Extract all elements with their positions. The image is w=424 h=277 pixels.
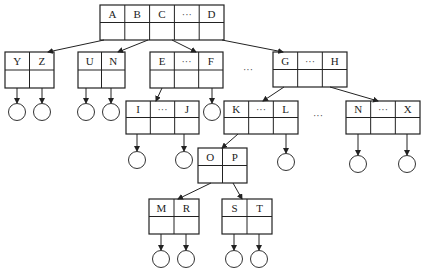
node-key: N [109, 55, 117, 67]
tree-node-root: ABC···D [100, 5, 224, 40]
edge-root-ef [172, 40, 196, 52]
edge-ef-ij [156, 88, 162, 101]
node-key: U [86, 55, 94, 67]
edge-op-st [233, 183, 242, 199]
leaf-node [103, 104, 120, 121]
leaf-node [9, 104, 26, 121]
tree-node-kl: K···L [224, 101, 298, 134]
node-key: I [136, 103, 140, 115]
node-key: S [231, 202, 237, 214]
leaf-node [350, 156, 367, 173]
node-key: ··· [182, 56, 192, 67]
node-key: G [281, 55, 289, 67]
edge-kl-op [222, 134, 238, 148]
node-key: M [157, 202, 167, 214]
tree-diagram: ABC···DYZUNE···FG···HI···JK···LN···XOPMR… [0, 0, 424, 277]
node-key: Y [13, 55, 21, 67]
node-key: K [232, 103, 240, 115]
leaf-node [129, 152, 146, 169]
node-key: ··· [158, 104, 168, 115]
node-key: T [256, 202, 263, 214]
leaf-node [399, 156, 416, 173]
node-key: X [404, 103, 412, 115]
node-key: F [208, 55, 214, 67]
node-key: J [185, 103, 190, 115]
node-key: R [183, 202, 191, 214]
leaf-node [204, 104, 221, 121]
edge-root-un [118, 40, 148, 52]
edge-root-yz [48, 40, 104, 52]
leaf-node [153, 251, 170, 268]
leaf-node [176, 152, 193, 169]
leaf-node [251, 251, 268, 268]
node-key: L [282, 103, 289, 115]
node-key: H [331, 55, 339, 67]
node-key: N [354, 103, 362, 115]
node-key: O [206, 151, 214, 163]
tree-node-ef: E···F [150, 52, 223, 88]
node-key: ··· [305, 56, 315, 67]
edge-gh-nx [330, 87, 378, 101]
node-key: E [159, 55, 166, 67]
ellipsis-marker: ··· [313, 110, 323, 121]
node-key: C [158, 8, 165, 20]
leaf-node [278, 154, 295, 171]
ellipsis-marker: ··· [243, 64, 253, 75]
leaf-node [78, 104, 95, 121]
leaf-node [226, 251, 243, 268]
tree-node-ij: I···J [126, 101, 199, 134]
node-key: D [208, 8, 216, 20]
edge-root-gh [222, 40, 283, 52]
tree-node-st: ST [222, 199, 272, 234]
node-key: ··· [256, 104, 266, 115]
tree-node-mr: MR [149, 199, 199, 234]
node-key: Z [38, 55, 45, 67]
tree-node-nx: N···X [346, 101, 420, 134]
node-key: B [134, 8, 141, 20]
edge-gh-kl [263, 87, 284, 101]
node-key: A [108, 8, 116, 20]
edge-op-mr [178, 183, 211, 199]
tree-node-gh: G···H [273, 52, 347, 87]
leaf-node [178, 251, 195, 268]
node-key: ··· [378, 104, 388, 115]
tree-node-yz: YZ [5, 52, 54, 88]
leaf-node [34, 104, 51, 121]
node-key: ··· [182, 9, 192, 20]
node-key: P [232, 151, 238, 163]
tree-node-op: OP [198, 148, 247, 183]
tree-node-un: UN [78, 52, 125, 88]
